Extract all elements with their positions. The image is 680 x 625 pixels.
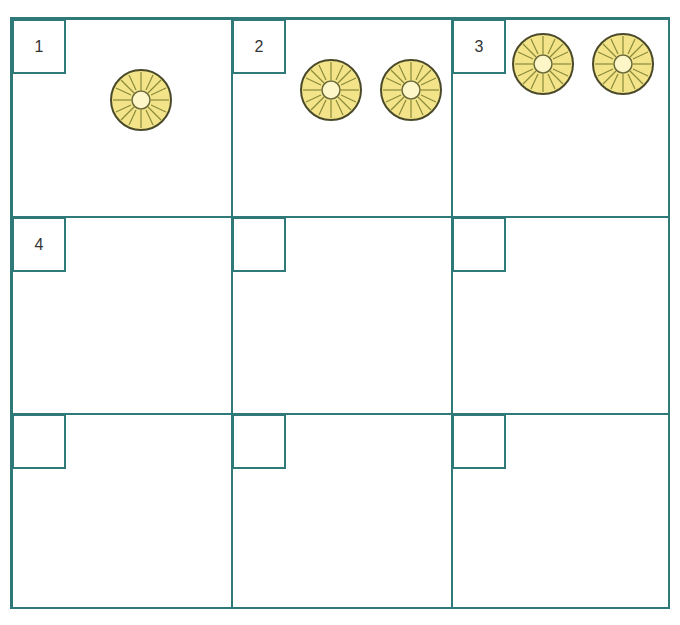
cell-number-box: 3 (452, 19, 506, 74)
cell-number-box: 1 (12, 19, 66, 74)
counting-grid: 1 2 3 4 (10, 17, 670, 609)
cell-7 (12, 414, 232, 609)
pineapple-ring-icon (299, 58, 363, 122)
cell-number-box (232, 414, 286, 469)
cell-number-box (452, 414, 506, 469)
pineapple-ring-icon (109, 68, 173, 132)
cell-2: 2 (232, 19, 452, 217)
cell-9 (452, 414, 670, 609)
cell-6 (452, 217, 670, 414)
cell-3: 3 (452, 19, 670, 217)
cell-5 (232, 217, 452, 414)
cell-1: 1 (12, 19, 232, 217)
cell-number-box (12, 414, 66, 469)
pineapple-ring-icon (379, 58, 443, 122)
cell-4: 4 (12, 217, 232, 414)
pineapple-ring-icon (511, 32, 575, 96)
cell-number-box: 4 (12, 217, 66, 272)
cell-number-box (452, 217, 506, 272)
cell-8 (232, 414, 452, 609)
cell-number-box (232, 217, 286, 272)
pineapple-ring-icon (591, 32, 655, 96)
cell-number-box: 2 (232, 19, 286, 74)
